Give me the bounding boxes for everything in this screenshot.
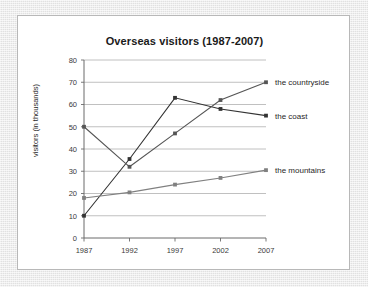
series-end-labels-group: the coastthe countrysidethe mountains — [275, 78, 330, 175]
data-point-marker — [82, 125, 86, 129]
data-point-marker — [219, 176, 223, 180]
axes-group — [81, 60, 266, 242]
y-tick-label: 50 — [69, 123, 77, 132]
line-chart-plot: 01020304050607080 19871992199720022007 t… — [18, 16, 351, 271]
series-line — [84, 98, 266, 216]
data-point-marker — [219, 98, 223, 102]
data-point-marker — [264, 168, 268, 172]
data-point-marker — [173, 96, 177, 100]
y-tick-label: 40 — [69, 145, 77, 154]
y-tick-label: 60 — [69, 100, 77, 109]
data-point-marker — [82, 196, 86, 200]
gridlines-group — [84, 60, 266, 216]
series-line — [84, 82, 266, 167]
data-point-marker — [128, 165, 132, 169]
x-tick-label: 1997 — [167, 246, 184, 255]
series-end-label: the coast — [275, 112, 308, 121]
x-tick-label: 1992 — [121, 246, 138, 255]
y-tick-label: 80 — [69, 56, 77, 65]
data-point-marker — [219, 107, 223, 111]
x-tick-labels-group: 19871992199720022007 — [76, 246, 275, 255]
data-point-marker — [82, 214, 86, 218]
data-point-marker — [173, 183, 177, 187]
chart-slide-panel: Overseas visitors (1987-2007) visitors (… — [17, 15, 350, 270]
data-point-marker — [173, 132, 177, 136]
y-tick-labels-group: 01020304050607080 — [69, 56, 77, 243]
y-tick-label: 70 — [69, 78, 77, 87]
x-tick-label: 2007 — [258, 246, 275, 255]
y-tick-label: 0 — [73, 234, 77, 243]
data-point-marker — [128, 157, 132, 161]
y-tick-label: 10 — [69, 212, 77, 221]
series-end-label: the mountains — [275, 166, 325, 175]
data-point-marker — [264, 114, 268, 118]
x-tick-label: 1987 — [76, 246, 93, 255]
data-point-marker — [128, 190, 132, 194]
y-tick-label: 30 — [69, 167, 77, 176]
data-point-marker — [264, 80, 268, 84]
chart-container: Overseas visitors (1987-2007) visitors (… — [18, 16, 351, 271]
y-tick-label: 20 — [69, 189, 77, 198]
x-tick-label: 2002 — [212, 246, 229, 255]
series-end-label: the countryside — [275, 78, 330, 87]
